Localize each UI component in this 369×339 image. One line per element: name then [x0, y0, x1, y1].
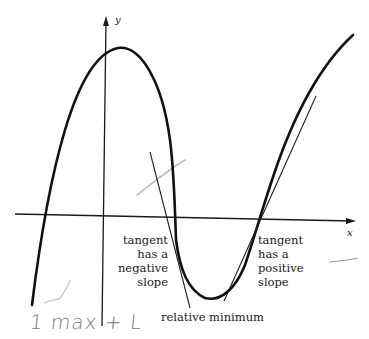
- y-axis: [102, 20, 106, 326]
- function-graph: [0, 0, 369, 339]
- annotation-line: slope: [118, 275, 168, 289]
- annotation-line: slope: [258, 275, 303, 289]
- pencil-stroke: [137, 160, 185, 195]
- annotation-line: positive: [258, 261, 303, 275]
- function-curve: [32, 35, 353, 305]
- relative-minimum-label: relative minimum: [161, 310, 264, 324]
- pencil-check: [45, 280, 70, 303]
- y-axis-arrow-icon: [103, 16, 109, 26]
- pencil-dash: [330, 258, 357, 262]
- annotation-line: has a: [118, 247, 168, 261]
- annotation-line: tangent: [118, 233, 168, 247]
- annotation-line: negative: [118, 261, 168, 275]
- x-axis-label: x: [347, 227, 353, 238]
- negative-tangent-annotation: tangent has a negative slope: [118, 233, 168, 289]
- y-axis-label: y: [115, 14, 121, 25]
- annotation-line: has a: [258, 247, 303, 261]
- annotation-line: tangent: [258, 233, 303, 247]
- x-axis-arrow-icon: [346, 218, 356, 224]
- handwritten-note: 1 max + L: [29, 310, 144, 334]
- x-axis: [15, 214, 352, 221]
- positive-tangent-annotation: tangent has a positive slope: [258, 233, 303, 289]
